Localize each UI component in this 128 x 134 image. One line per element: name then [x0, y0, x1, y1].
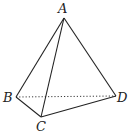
edge-ab	[16, 18, 64, 97]
edge-cd	[41, 96, 116, 117]
edge-ad	[64, 18, 116, 96]
vertex-label-d: D	[116, 90, 128, 105]
edge-bd-hidden	[16, 96, 116, 97]
vertex-label-a: A	[57, 1, 67, 16]
edges-group	[16, 18, 116, 117]
diagram-svg: ABCD	[0, 0, 128, 134]
labels-group: ABCD	[2, 1, 128, 134]
edge-ac	[41, 18, 64, 117]
vertex-label-c: C	[36, 119, 46, 134]
tetrahedron-diagram: ABCD	[0, 0, 128, 134]
vertex-label-b: B	[2, 90, 13, 105]
edge-bc	[16, 97, 41, 117]
